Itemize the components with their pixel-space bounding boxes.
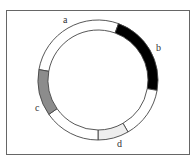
ring-diagram: a b c d bbox=[0, 0, 196, 159]
label-b: b bbox=[156, 42, 161, 53]
label-c: c bbox=[35, 102, 40, 113]
label-d: d bbox=[117, 138, 122, 149]
label-a: a bbox=[63, 14, 68, 25]
